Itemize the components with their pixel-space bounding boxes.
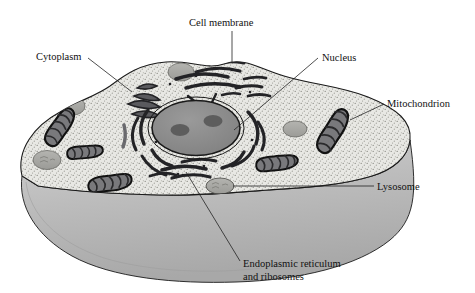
label-nucleus: Nucleus [322, 52, 356, 63]
nucleolus [204, 115, 223, 127]
label-cytoplasm: Cytoplasm [36, 51, 82, 62]
nucleus [148, 97, 244, 159]
label-lysosome: Lysosome [377, 181, 420, 192]
nucleolus [171, 124, 190, 136]
cell-diagram-canvas: Cell membrane Cytoplasm Nucleus Mitochon… [0, 0, 475, 293]
lysosome [283, 121, 307, 137]
nuclear-envelope [152, 101, 240, 156]
lysosome-labeled [206, 178, 234, 194]
label-cell-membrane: Cell membrane [189, 17, 254, 28]
lysosome [33, 151, 61, 170]
label-mitochondrion: Mitochondrion [387, 98, 451, 109]
cell-diagram: Cell membrane Cytoplasm Nucleus Mitochon… [0, 0, 475, 293]
label-endoplasmic-reticulum: Endoplasmic reticulum [243, 258, 341, 269]
label-endoplasmic-reticulum-line2: and ribosomes [243, 271, 304, 282]
